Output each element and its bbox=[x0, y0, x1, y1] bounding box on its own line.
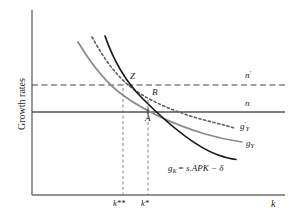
gy-prime-curve bbox=[92, 37, 234, 128]
curve-label-gy-prime-sub: Y bbox=[246, 125, 250, 132]
curve-label-gk-equation: gK= s.APK − δ bbox=[168, 164, 224, 173]
curve-label-gy: gY bbox=[246, 139, 254, 148]
n-label: n bbox=[245, 99, 250, 108]
gk-curve bbox=[105, 36, 236, 160]
curve-label-gy-sub: Y bbox=[251, 142, 255, 149]
point-label-a: A bbox=[145, 114, 151, 123]
growth-rates-figure: Growth rates k n' n Z B A k** k* g'Y gY … bbox=[0, 0, 294, 223]
n-prime-label: n' bbox=[245, 71, 251, 80]
curve-label-gy-base: g bbox=[246, 138, 251, 148]
y-axis-title: Growth rates bbox=[16, 78, 27, 130]
point-label-z: Z bbox=[130, 72, 135, 81]
n-prime-label-text: n bbox=[245, 70, 250, 80]
tick-label-k-double-star: k** bbox=[113, 199, 125, 208]
x-axis-title: k bbox=[271, 199, 275, 209]
curve-label-gk-sub: K bbox=[173, 167, 177, 174]
curve-label-gy-prime-base: g bbox=[240, 121, 245, 131]
curve-label-gk-base: g bbox=[168, 163, 173, 173]
curve-label-gy-prime: g'Y bbox=[240, 122, 249, 131]
n-prime-label-prime: ' bbox=[250, 69, 251, 76]
plot-canvas bbox=[0, 0, 294, 223]
tick-label-k-star: k* bbox=[141, 199, 149, 208]
point-label-b: B bbox=[152, 88, 158, 97]
curve-label-gk-rhs: = s.APK − δ bbox=[178, 163, 224, 173]
gy-curve bbox=[78, 42, 242, 142]
